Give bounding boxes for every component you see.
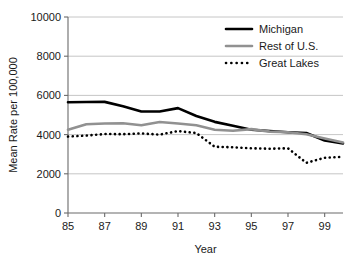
series-lines [68, 102, 343, 163]
x-tick-label: 91 [172, 220, 184, 232]
x-tick-label: 99 [319, 220, 331, 232]
y-tick-labels: 0200040006000800010000 [30, 11, 61, 219]
line-chart: 0200040006000800010000 8587899193959799 … [0, 0, 351, 259]
x-tick-label: 87 [99, 220, 111, 232]
y-tick-label: 6000 [37, 89, 61, 101]
x-tick-label: 97 [282, 220, 294, 232]
legend-label-great-lakes: Great Lakes [259, 57, 319, 69]
x-tick-label: 89 [135, 220, 147, 232]
y-axis-title: Mean Rate per 100,000 [7, 57, 19, 173]
chart-figure: 0200040006000800010000 8587899193959799 … [0, 0, 351, 259]
y-tick-label: 8000 [37, 50, 61, 62]
x-tick-label: 93 [209, 220, 221, 232]
x-axis-ticks [68, 213, 325, 217]
legend: MichiganRest of U.S.Great Lakes [226, 23, 319, 69]
series-line-great-lakes [68, 131, 343, 163]
y-axis-ticks [64, 17, 68, 213]
y-tick-label: 0 [55, 207, 61, 219]
x-tick-label: 95 [245, 220, 257, 232]
x-tick-labels: 8587899193959799 [62, 220, 331, 232]
legend-label-rest-of-u-s: Rest of U.S. [259, 40, 318, 52]
y-tick-label: 2000 [37, 168, 61, 180]
y-tick-label: 4000 [37, 129, 61, 141]
x-tick-label: 85 [62, 220, 74, 232]
y-tick-label: 10000 [30, 11, 61, 23]
legend-label-michigan: Michigan [259, 23, 303, 35]
x-axis-title: Year [194, 243, 217, 255]
